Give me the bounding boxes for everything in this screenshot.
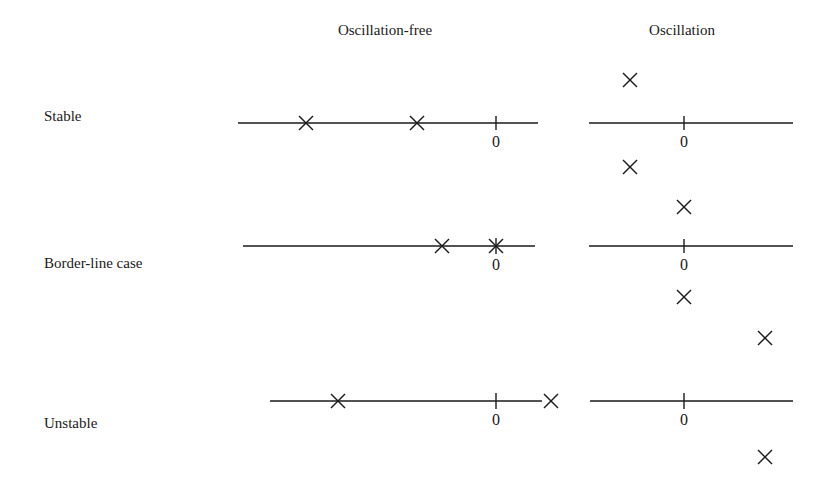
pole-marker-icon [623, 160, 637, 174]
origin-label: 0 [492, 411, 500, 429]
pole-marker-icon [623, 73, 637, 87]
pole-diagrams [0, 0, 832, 492]
pole-marker-icon [677, 200, 691, 214]
stable-complex-axis [589, 116, 793, 130]
pole-marker-icon [544, 394, 558, 408]
origin-label: 0 [680, 256, 688, 274]
borderline-complex-axis [589, 239, 793, 253]
origin-label: 0 [680, 133, 688, 151]
origin-label: 0 [680, 411, 688, 429]
origin-label: 0 [492, 256, 500, 274]
unstable-complex-axis [590, 393, 793, 409]
origin-label: 0 [492, 133, 500, 151]
pole-marker-icon [677, 290, 691, 304]
pole-marker-icon [758, 331, 772, 345]
unstable-real-axis [270, 393, 542, 409]
stable-real-axis [238, 116, 538, 130]
pole-marker-icon [758, 450, 772, 464]
